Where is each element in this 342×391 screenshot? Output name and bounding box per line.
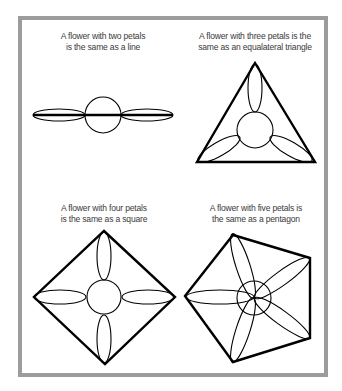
petal <box>97 232 111 280</box>
petal <box>250 292 313 343</box>
petal <box>186 290 254 304</box>
petal <box>97 315 111 363</box>
three-petal-flower <box>195 63 316 167</box>
four-petal-flower <box>34 231 175 364</box>
flower-center <box>237 112 273 148</box>
flower-diagrams <box>0 0 342 391</box>
petal <box>122 290 174 304</box>
pentagon-shape <box>185 235 310 362</box>
square-shape <box>34 231 175 364</box>
two-petal-flower <box>33 97 173 133</box>
petal <box>250 252 313 303</box>
petal <box>34 290 86 304</box>
five-petal-flower <box>185 232 314 365</box>
flower-center <box>87 280 121 314</box>
